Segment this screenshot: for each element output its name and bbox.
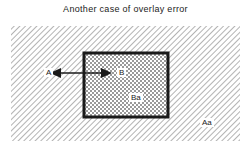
point-b-label: B bbox=[117, 68, 126, 77]
point-a-label: A bbox=[44, 68, 53, 77]
region-ba-label: Ba bbox=[129, 93, 143, 102]
inner-region-ba bbox=[84, 53, 168, 117]
region-aa-label: Aa bbox=[200, 118, 214, 127]
